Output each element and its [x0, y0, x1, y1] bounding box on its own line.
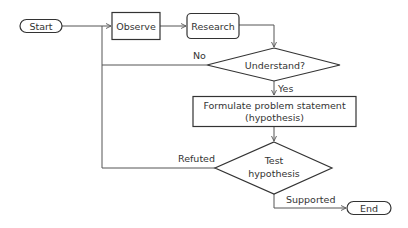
node-test-line1: Test — [264, 155, 284, 166]
node-test[interactable]: Test hypothesis — [215, 142, 332, 194]
edge-research-understand — [239, 25, 274, 47]
node-formulate-line1: Formulate problem statement — [203, 100, 346, 111]
node-test-line2: hypothesis — [248, 168, 300, 179]
node-understand-label: Understand? — [245, 60, 305, 71]
node-start[interactable]: Start — [20, 20, 62, 33]
node-observe[interactable]: Observe — [112, 13, 160, 40]
node-understand[interactable]: Understand? — [207, 48, 340, 81]
edge-no-label: No — [193, 50, 206, 61]
edge-supported-label: Supported — [286, 194, 335, 205]
node-formulate-line2: (hypothesis) — [245, 112, 304, 123]
node-research-label: Research — [191, 21, 235, 32]
node-start-label: Start — [29, 21, 52, 32]
node-end[interactable]: End — [347, 202, 391, 215]
node-observe-label: Observe — [116, 21, 156, 32]
node-research[interactable]: Research — [187, 14, 239, 39]
node-end-label: End — [360, 203, 378, 214]
node-formulate[interactable]: Formulate problem statement (hypothesis) — [193, 97, 356, 127]
flowchart-canvas: Start Observe Research Understand? No Ye… — [0, 0, 408, 228]
edge-refuted-label: Refuted — [178, 153, 215, 164]
edge-yes-label: Yes — [277, 83, 293, 94]
